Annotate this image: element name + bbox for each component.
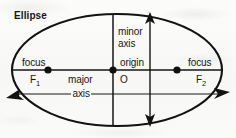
minor-axis-label-line2: axis bbox=[118, 38, 135, 49]
origin-label: origin bbox=[120, 57, 144, 68]
focus-left-point-dot bbox=[44, 66, 51, 73]
origin-point-label: O bbox=[120, 74, 128, 85]
major-axis-label-line2: axis bbox=[71, 88, 91, 99]
focus-right-point-label: F2 bbox=[196, 74, 206, 85]
focus-right-label: focus bbox=[188, 57, 211, 68]
major-axis-label-line1: major bbox=[68, 74, 93, 85]
focus-right-point-text: F2 bbox=[196, 74, 206, 85]
focus-left-label: focus bbox=[22, 57, 45, 68]
focus-left-point-label: F1 bbox=[30, 74, 40, 85]
figure-title: Ellipse bbox=[14, 10, 47, 21]
ellipse-figure: Ellipse focus F1 focus F2 minor axis ori… bbox=[0, 0, 236, 138]
focus-left-point-text: F1 bbox=[30, 74, 40, 85]
minor-axis-label-line1: minor bbox=[118, 26, 143, 37]
focus-right-point-dot bbox=[173, 66, 180, 73]
origin-point-dot bbox=[109, 66, 116, 73]
